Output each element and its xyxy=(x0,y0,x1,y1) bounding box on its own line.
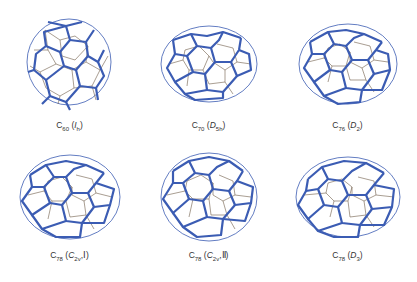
molecule-label: C76 (D2) xyxy=(278,120,417,132)
molecule-c78-c2v-i: C78 (C2v,Ⅰ) xyxy=(0,141,139,282)
figure-caption-clipped xyxy=(0,277,417,282)
molecule-c76: C76 (D2) xyxy=(278,0,417,141)
molecule-label: C60 (Ih) xyxy=(0,120,139,132)
molecule-label: C78 (C2v,Ⅰ) xyxy=(0,250,139,262)
molecule-c60: C60 (Ih) xyxy=(0,0,139,141)
molecule-c78-c2v-ii: C78 (C2v,Ⅱ) xyxy=(139,141,278,282)
molecule-label: C78 (D3) xyxy=(278,250,417,262)
molecule-c78-d3: C78 (D3) xyxy=(278,141,417,282)
molecule-label: C70 (D5h) xyxy=(139,120,278,132)
molecule-label: C78 (C2v,Ⅱ) xyxy=(139,250,278,262)
molecule-c70: C70 (D5h) xyxy=(139,0,278,141)
